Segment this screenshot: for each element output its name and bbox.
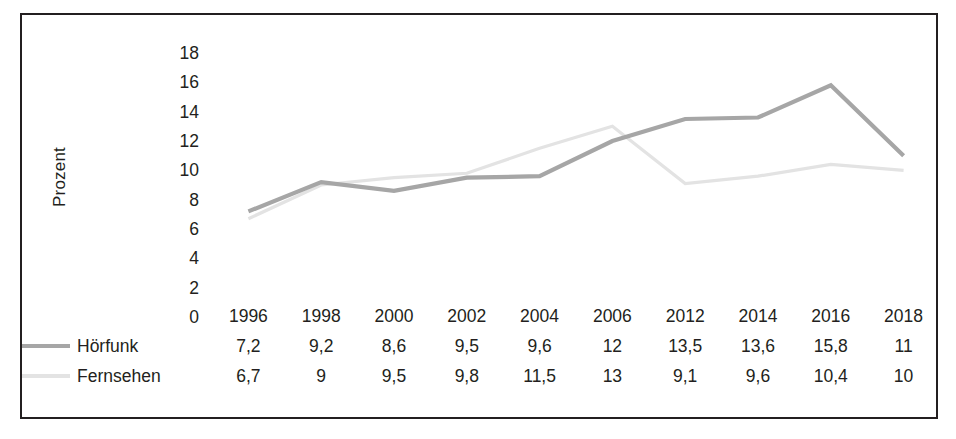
table-row-hoerfunk: Hörfunk 7,2 9,2 8,6 9,5 9,6 12 13,5 13,6… bbox=[22, 331, 940, 361]
data-cell: 6,7 bbox=[212, 361, 285, 391]
data-cell: 9,5 bbox=[358, 361, 431, 391]
column-header: 2000 bbox=[358, 301, 431, 331]
y-axis-tick-labels: 181614121086420 bbox=[137, 15, 199, 315]
column-header: 2016 bbox=[794, 301, 867, 331]
table-row-fernsehen: Fernsehen 6,7 9 9,5 9,8 11,5 13 9,1 9,6 … bbox=[22, 361, 940, 391]
column-header: 2018 bbox=[867, 301, 940, 331]
y-axis-tick-label: 2 bbox=[159, 279, 199, 297]
column-header: 2004 bbox=[503, 301, 576, 331]
data-cell: 11 bbox=[867, 331, 940, 361]
plot-area: Prozent 181614121086420 bbox=[22, 15, 940, 315]
chart-figure: Prozent 181614121086420 1996 1998 2000 2… bbox=[20, 13, 938, 419]
data-cell: 9,1 bbox=[649, 361, 722, 391]
y-axis-tick-label: 8 bbox=[159, 191, 199, 209]
series-line-hoerfunk bbox=[248, 85, 903, 211]
y-axis-tick-label: 14 bbox=[159, 103, 199, 121]
column-header: 2006 bbox=[576, 301, 649, 331]
data-cell: 7,2 bbox=[212, 331, 285, 361]
header-label-cell bbox=[22, 301, 212, 331]
y-axis-tick-label: 12 bbox=[159, 132, 199, 150]
data-cell: 9,6 bbox=[722, 361, 795, 391]
legend-label: Fernsehen bbox=[77, 366, 161, 387]
table-row-header: 1996 1998 2000 2002 2004 2006 2012 2014 … bbox=[22, 301, 940, 331]
column-header: 1996 bbox=[212, 301, 285, 331]
data-cell: 11,5 bbox=[503, 361, 576, 391]
column-header: 2012 bbox=[649, 301, 722, 331]
y-axis-tick-label: 6 bbox=[159, 220, 199, 238]
data-cell: 9,6 bbox=[503, 331, 576, 361]
legend-item-hoerfunk: Hörfunk bbox=[22, 331, 212, 361]
data-cell: 12 bbox=[576, 331, 649, 361]
y-axis-title: Prozent bbox=[50, 117, 70, 237]
legend-item-fernsehen: Fernsehen bbox=[22, 361, 212, 391]
y-axis-tick-label: 10 bbox=[159, 161, 199, 179]
y-axis-tick-label: 16 bbox=[159, 73, 199, 91]
data-cell: 13 bbox=[576, 361, 649, 391]
legend-line-swatch-icon bbox=[22, 374, 70, 378]
column-header: 2002 bbox=[430, 301, 503, 331]
line-chart-plot bbox=[212, 15, 940, 315]
column-header: 2014 bbox=[722, 301, 795, 331]
chart-data-table: 1996 1998 2000 2002 2004 2006 2012 2014 … bbox=[22, 301, 940, 391]
series-line-fernsehen bbox=[248, 126, 903, 218]
data-cell: 13,5 bbox=[649, 331, 722, 361]
y-axis-tick-label: 18 bbox=[159, 44, 199, 62]
data-cell: 9,2 bbox=[285, 331, 358, 361]
data-cell: 9,8 bbox=[430, 361, 503, 391]
data-cell: 15,8 bbox=[794, 331, 867, 361]
data-cell: 10 bbox=[867, 361, 940, 391]
data-cell: 10,4 bbox=[794, 361, 867, 391]
data-cell: 13,6 bbox=[722, 331, 795, 361]
data-cell: 9,5 bbox=[430, 331, 503, 361]
column-header: 1998 bbox=[285, 301, 358, 331]
data-cell: 9 bbox=[285, 361, 358, 391]
y-axis-tick-label: 4 bbox=[159, 249, 199, 267]
legend-line-swatch-icon bbox=[22, 344, 70, 348]
legend-label: Hörfunk bbox=[77, 336, 138, 357]
data-cell: 8,6 bbox=[358, 331, 431, 361]
